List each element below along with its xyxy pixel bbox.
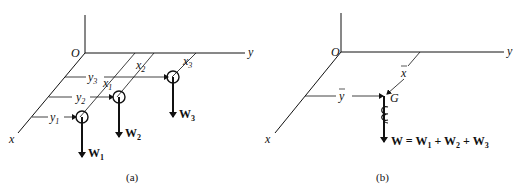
caption-a: (a): [126, 171, 139, 184]
axes-b: [275, 13, 504, 133]
diagram-canvas: O y x y1 y2 y3 x1 x2 x3: [0, 0, 524, 196]
panel-b: O y x x y G W = W1 + W2 + W3 (b): [264, 13, 513, 184]
ybar-label: y: [338, 89, 345, 103]
w3-label: W3: [179, 107, 195, 123]
w1-label: W1: [88, 146, 104, 162]
x2-label: x2: [135, 58, 145, 74]
y1-label: y1: [49, 110, 59, 126]
y-axis-label: y: [247, 45, 254, 59]
resultant-equation: W = W1 + W2 + W3: [391, 134, 489, 150]
weight-arrows: [82, 77, 173, 157]
panel-a: O y x y1 y2 y3 x1 x2 x3: [8, 15, 254, 184]
x-axis-b: [275, 52, 341, 133]
x3-label: x3: [182, 54, 192, 70]
caption-b: (b): [376, 171, 389, 184]
x-axis-label-b: x: [264, 132, 271, 146]
x-axis-label: x: [8, 132, 15, 146]
w2-label: W2: [125, 126, 141, 142]
y2-label: y2: [75, 90, 85, 106]
x1-label: x1: [102, 76, 112, 92]
y-axis-label-b: y: [506, 44, 513, 58]
centroid-label: G: [390, 91, 399, 105]
origin-label-b: O: [331, 45, 340, 59]
origin-label: O: [71, 46, 80, 60]
y3-label: y3: [87, 70, 97, 86]
xbar-label: x: [400, 66, 407, 80]
